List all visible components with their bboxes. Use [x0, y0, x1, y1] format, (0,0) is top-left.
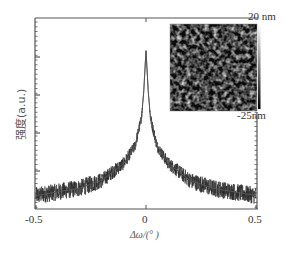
x-tick-label-pos: 0.5 [248, 213, 262, 225]
colorbar [258, 24, 261, 109]
colorbar-max-label: 20 nm [248, 10, 276, 22]
x-axis-title: Δω/(° ) [130, 229, 159, 240]
x-tick-label-zero: 0 [142, 213, 148, 225]
x-tick-label-neg: -0.5 [25, 213, 42, 225]
colorbar-min-label: -25nm [237, 109, 266, 121]
y-axis-title: 强度(a.u.) [12, 89, 28, 140]
afm-inset [170, 24, 257, 111]
